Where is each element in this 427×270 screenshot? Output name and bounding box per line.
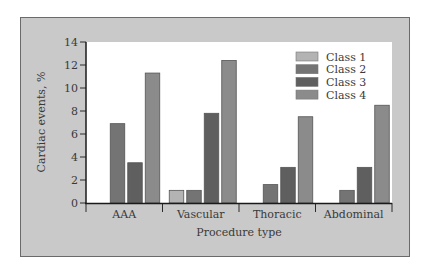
y-tick-label: 6 bbox=[71, 128, 78, 141]
x-tick-label: Vascular bbox=[176, 208, 225, 221]
bar-class-4-aaa bbox=[145, 73, 160, 203]
y-axis-title: Cardiac events, % bbox=[35, 72, 48, 173]
y-tick-label: 2 bbox=[71, 174, 78, 187]
bar-class-2-vascular bbox=[187, 190, 202, 203]
y-tick-label: 10 bbox=[64, 82, 78, 95]
legend-swatch bbox=[296, 65, 318, 74]
bar-class-2-abdominal bbox=[340, 190, 355, 203]
y-tick-label: 4 bbox=[71, 151, 78, 164]
y-tick-label: 0 bbox=[71, 197, 78, 210]
y-tick-label: 14 bbox=[64, 36, 78, 49]
legend-swatch bbox=[296, 90, 318, 99]
legend-label: Class 1 bbox=[326, 51, 366, 64]
bar-class-4-abdominal bbox=[375, 105, 390, 203]
legend-label: Class 2 bbox=[326, 63, 366, 76]
x-tick-label: Thoracic bbox=[253, 208, 302, 221]
legend-swatch bbox=[296, 52, 318, 61]
bar-class-2-aaa bbox=[110, 124, 125, 203]
bar-chart: 02468101214 AAAVascularThoracicAbdominal… bbox=[0, 0, 427, 270]
bar-class-2-thoracic bbox=[263, 185, 278, 203]
bar-class-3-vascular bbox=[204, 113, 219, 203]
bar-class-3-aaa bbox=[128, 163, 143, 203]
bar-class-3-thoracic bbox=[281, 167, 296, 203]
bar-class-1-vascular bbox=[169, 190, 184, 203]
legend-label: Class 3 bbox=[326, 76, 366, 89]
x-axis-title: Procedure type bbox=[196, 226, 282, 239]
y-tick-label: 8 bbox=[71, 105, 78, 118]
bar-class-4-thoracic bbox=[298, 117, 313, 203]
legend-swatch bbox=[296, 77, 318, 86]
y-tick-label: 12 bbox=[64, 59, 78, 72]
x-tick-label: Abdominal bbox=[323, 208, 384, 221]
bar-class-3-abdominal bbox=[357, 167, 372, 203]
bar-class-4-vascular bbox=[222, 60, 237, 203]
legend-label: Class 4 bbox=[326, 89, 366, 102]
x-tick-label: AAA bbox=[111, 208, 137, 221]
